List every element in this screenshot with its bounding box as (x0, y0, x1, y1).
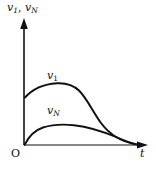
curve-label-vn: vN (47, 105, 60, 117)
y-axis-label-v1: v1 (7, 1, 18, 14)
y-axis-label-vn-subscript: N (31, 6, 38, 15)
x-axis-label: t (140, 148, 144, 159)
origin-label: O (11, 148, 20, 159)
curve-label-v1: v1 (47, 70, 58, 82)
curve-label-v1-subscript: 1 (53, 74, 58, 83)
y-axis-label-separator: , (18, 1, 25, 14)
chart-canvas (0, 0, 156, 175)
velocity-vs-time-figure: v1, vN v1 vN O t (0, 0, 156, 175)
y-axis-label: v1, vN (7, 2, 38, 14)
curve-v1 (25, 83, 136, 144)
curve-vn (25, 125, 137, 145)
y-axis-arrowhead (20, 18, 28, 29)
curve-label-vn-subscript: N (53, 109, 60, 118)
y-axis-label-vn: vN (25, 1, 38, 14)
